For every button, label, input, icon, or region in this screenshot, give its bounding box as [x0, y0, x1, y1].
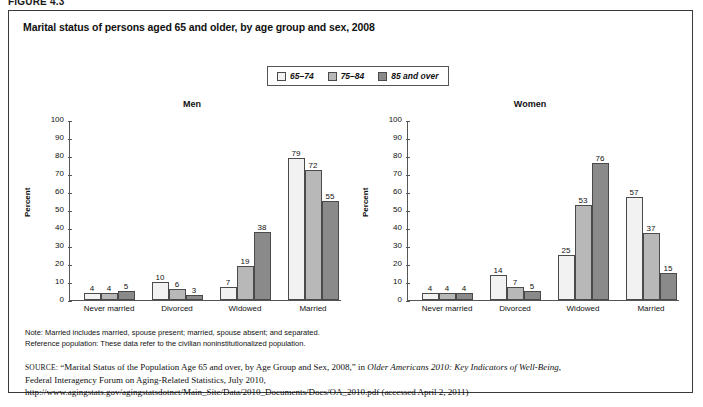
x-axis-category-label: Never married — [84, 304, 135, 313]
y-axis-tick: 40 — [68, 229, 72, 230]
bar: 19 — [237, 266, 254, 300]
figure-label: FIGURE 4.3 — [8, 0, 64, 7]
bar: 38 — [254, 232, 271, 300]
bar: 7 — [220, 287, 237, 300]
source-kicker: SOURCE: — [25, 363, 58, 372]
bar-group-bars: 444 — [422, 120, 473, 300]
bar-value-label: 6 — [175, 280, 179, 289]
legend-item: 75–84 — [328, 71, 365, 81]
y-axis-tick-label: 0 — [60, 295, 64, 304]
bar: 4 — [456, 293, 473, 300]
legend-item-label: 75–84 — [341, 71, 365, 81]
bar-group: 444Never married — [422, 120, 473, 300]
bar-value-label: 5 — [530, 282, 534, 291]
legend-swatch-icon — [378, 72, 387, 81]
y-axis-tick-label: 60 — [55, 187, 64, 196]
bar-value-label: 37 — [647, 224, 656, 233]
y-axis-tick: 40 — [406, 229, 410, 230]
y-axis-tick: 90 — [406, 139, 410, 140]
legend-item-label: 65–74 — [290, 71, 314, 81]
bar-group-bars: 797255 — [288, 120, 339, 300]
bar-value-label: 5 — [124, 282, 128, 291]
y-axis-tick-label: 40 — [55, 223, 64, 232]
panel-title-women: Women — [365, 99, 695, 109]
y-axis-tick-label: 100 — [51, 115, 64, 124]
y-axis-tick: 100 — [406, 121, 410, 122]
y-axis-tick: 0 — [68, 301, 72, 302]
x-axis-category-label: Married — [637, 304, 664, 313]
bar: 76 — [592, 163, 609, 300]
bar-value-label: 7 — [226, 278, 230, 287]
note-line-1: Note: Married includes married, spouse p… — [25, 328, 320, 339]
bar: 5 — [118, 291, 135, 300]
bar-group: 1475Divorced — [490, 120, 541, 300]
y-axis-tick-label: 80 — [55, 151, 64, 160]
y-axis-tick-label: 50 — [55, 205, 64, 214]
bar: 15 — [660, 273, 677, 300]
y-axis-tick: 50 — [68, 211, 72, 212]
bar: 6 — [169, 289, 186, 300]
legend-item-label: 85 and over — [391, 71, 438, 81]
bar-group-bars: 1475 — [490, 120, 541, 300]
y-axis-tick: 60 — [406, 193, 410, 194]
legend-item: 65–74 — [277, 71, 314, 81]
bar-value-label: 3 — [192, 286, 196, 295]
y-axis-tick-label: 10 — [393, 277, 402, 286]
bar-group-bars: 445 — [84, 120, 135, 300]
bar-value-label: 14 — [494, 266, 503, 275]
y-axis-tick-label: 50 — [393, 205, 402, 214]
bar-value-label: 4 — [462, 284, 466, 293]
y-axis-tick-label: 70 — [393, 169, 402, 178]
bar-group-bars: 1063 — [152, 120, 203, 300]
bar: 4 — [101, 293, 118, 300]
bar-value-label: 10 — [156, 273, 165, 282]
y-axis-tick: 10 — [406, 283, 410, 284]
y-axis-tick: 50 — [406, 211, 410, 212]
x-axis-category-label: Widowed — [229, 304, 262, 313]
y-axis-tick-label: 90 — [393, 133, 402, 142]
bar-value-label: 57 — [630, 188, 639, 197]
y-axis-tick: 30 — [68, 247, 72, 248]
bar-value-label: 7 — [513, 278, 517, 287]
x-axis-category-label: Married — [299, 304, 326, 313]
bar: 55 — [322, 201, 339, 300]
y-axis-tick-label: 30 — [393, 241, 402, 250]
bar: 79 — [288, 158, 305, 300]
bar-value-label: 15 — [664, 264, 673, 273]
panel-title-men: Men — [27, 99, 357, 109]
y-axis-tick-label: 10 — [55, 277, 64, 286]
bar-value-label: 4 — [90, 284, 94, 293]
bar: 14 — [490, 275, 507, 300]
x-axis-category-label: Divorced — [161, 304, 193, 313]
bar-group-bars: 573715 — [626, 120, 677, 300]
bar: 10 — [152, 282, 169, 300]
plot-area-men: 0102030405060708090100445Never married10… — [69, 121, 341, 301]
bar: 57 — [626, 197, 643, 300]
y-axis-tick-label: 0 — [398, 295, 402, 304]
y-axis-tick-label: 90 — [55, 133, 64, 142]
y-axis-tick-label: 80 — [393, 151, 402, 160]
bar: 7 — [507, 287, 524, 300]
bar-value-label: 76 — [596, 154, 605, 163]
y-axis-tick: 20 — [68, 265, 72, 266]
bar-value-label: 72 — [309, 161, 318, 170]
bar: 4 — [439, 293, 456, 300]
bar-group: 255376Widowed — [558, 120, 609, 300]
bar-value-label: 4 — [428, 284, 432, 293]
legend-item: 85 and over — [378, 71, 438, 81]
y-axis-tick-label: 20 — [55, 259, 64, 268]
bar-group-bars: 255376 — [558, 120, 609, 300]
bar: 37 — [643, 233, 660, 300]
y-axis-tick: 70 — [406, 175, 410, 176]
bar-value-label: 4 — [445, 284, 449, 293]
y-axis-tick-label: 70 — [55, 169, 64, 178]
bar-value-label: 19 — [241, 257, 250, 266]
y-axis-tick: 0 — [406, 301, 410, 302]
plot-area-women: 0102030405060708090100444Never married14… — [407, 121, 679, 301]
chart-legend: 65–7475–8485 and over — [267, 66, 449, 86]
y-axis-tick: 100 — [68, 121, 72, 122]
y-axis-tick: 90 — [68, 139, 72, 140]
bar-group: 797255Married — [288, 120, 339, 300]
y-axis-label-women: Percent — [361, 188, 370, 217]
y-axis-tick: 60 — [68, 193, 72, 194]
